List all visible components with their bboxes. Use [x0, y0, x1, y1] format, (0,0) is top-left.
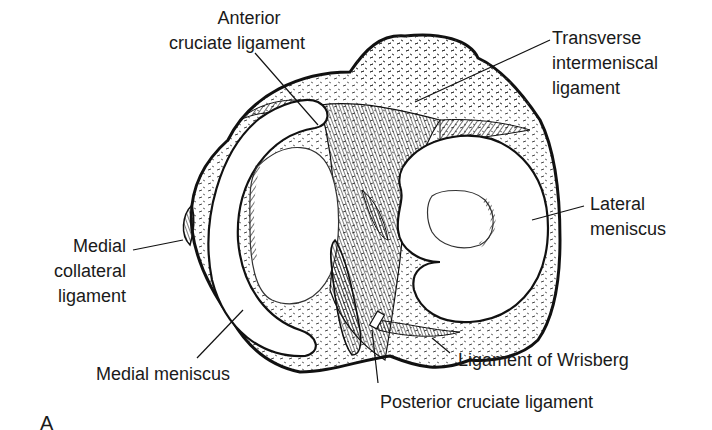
label-anterior-cruciate-ligament: Anterior cruciate ligament	[176, 6, 322, 56]
label-line: Transverse	[552, 26, 658, 51]
label-line: Ligament of Wrisberg	[458, 348, 629, 373]
label-line: ligament	[30, 284, 126, 309]
label-line: cruciate ligament	[152, 31, 322, 56]
label-line: Medial	[30, 234, 126, 259]
label-line: ligament	[552, 76, 658, 101]
label-line: meniscus	[590, 217, 666, 242]
label-line: collateral	[30, 259, 126, 284]
label-lateral-meniscus: Lateral meniscus	[590, 192, 666, 242]
label-line: Anterior	[176, 6, 322, 31]
label-posterior-cruciate-ligament: Posterior cruciate ligament	[380, 390, 593, 415]
label-ligament-of-wrisberg: Ligament of Wrisberg	[458, 348, 629, 373]
label-line: Lateral	[590, 192, 666, 217]
label-medial-meniscus: Medial meniscus	[96, 362, 230, 387]
label-line: Medial meniscus	[96, 362, 230, 387]
panel-letter: A	[40, 412, 53, 430]
label-line: Posterior cruciate ligament	[380, 390, 593, 415]
knee-anatomy-figure: Anterior cruciate ligament Transverse in…	[0, 0, 712, 430]
label-medial-collateral-ligament: Medial collateral ligament	[30, 234, 126, 309]
label-transverse-intermeniscal-ligament: Transverse intermeniscal ligament	[552, 26, 658, 101]
label-line: intermeniscal	[552, 51, 658, 76]
